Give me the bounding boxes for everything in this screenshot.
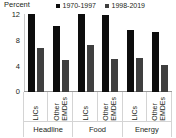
- bar-group-energy: [123, 14, 172, 92]
- subcategory-cell: Other EMDEs: [146, 92, 171, 121]
- subcategory-cell: Other EMDEs: [97, 92, 122, 121]
- bar-subgroup: [123, 14, 148, 92]
- bar: [161, 65, 168, 92]
- bar-group-headline: [24, 14, 73, 92]
- bar: [53, 26, 60, 92]
- bar: [28, 14, 35, 92]
- bar-group-food: [73, 14, 122, 92]
- y-tick-12: 12: [2, 11, 20, 19]
- bar: [152, 32, 159, 92]
- bar: [78, 14, 85, 92]
- bar-groups: [24, 14, 172, 92]
- bar-subgroup: [98, 14, 123, 92]
- bar: [62, 60, 69, 93]
- bar-subgroup: [49, 14, 74, 92]
- bar: [111, 59, 118, 92]
- subcategory-row: LICsOther EMDEs: [123, 92, 171, 121]
- bar: [136, 58, 143, 92]
- bar: [127, 30, 134, 92]
- subcategory-row: LICsOther EMDEs: [73, 92, 121, 121]
- subcategory-cell: Other EMDEs: [47, 92, 72, 121]
- subcategory-label: LICs: [32, 106, 40, 120]
- category-label: Energy: [123, 121, 171, 137]
- y-tick-0: 0: [2, 88, 20, 96]
- subcategory-cell: LICs: [123, 92, 147, 121]
- bar-subgroup: [73, 14, 98, 92]
- y-tick-4: 4: [2, 63, 20, 71]
- subcategory-label: Other EMDEs: [102, 97, 117, 121]
- subcategory-label: LICs: [131, 106, 139, 120]
- subcategory-label: Other EMDEs: [53, 97, 68, 121]
- subcategory-cell: LICs: [73, 92, 97, 121]
- category-label: Food: [73, 121, 121, 137]
- bar: [37, 48, 44, 92]
- category-cell-food: LICsOther EMDEsFood: [72, 92, 122, 137]
- subcategory-cell: LICs: [24, 92, 48, 121]
- bar: [87, 45, 94, 92]
- bar: [102, 15, 109, 92]
- category-cell-energy: LICsOther EMDEsEnergy: [122, 92, 172, 137]
- y-tick-8: 8: [2, 37, 20, 45]
- category-label: Headline: [24, 121, 72, 137]
- plot-area: [24, 14, 172, 92]
- subcategory-label: LICs: [82, 106, 90, 120]
- category-cell-headline: LICsOther EMDEsHeadline: [23, 92, 73, 137]
- bar-subgroup: [147, 14, 172, 92]
- bar-chart: Percent 1970-1997 1998-2019 12 8 4 0 LIC…: [0, 0, 176, 138]
- bar-subgroup: [24, 14, 49, 92]
- subcategory-row: LICsOther EMDEs: [24, 92, 72, 121]
- category-axis-table: LICsOther EMDEsHeadlineLICsOther EMDEsFo…: [24, 92, 172, 137]
- subcategory-label: Other EMDEs: [151, 97, 166, 121]
